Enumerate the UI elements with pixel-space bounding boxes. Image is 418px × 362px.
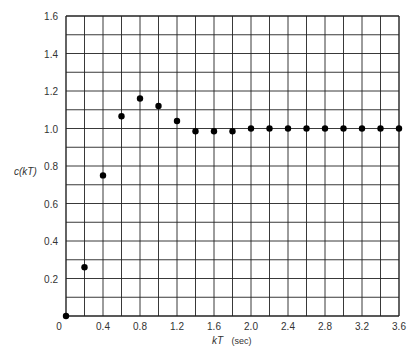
data-point [377, 125, 383, 131]
x-tick-label: 0 [56, 321, 62, 332]
x-tick-label: 3.6 [392, 321, 406, 332]
y-axis-label: c(kT) [14, 166, 37, 177]
x-tick-label: 3.2 [355, 321, 369, 332]
data-point [137, 95, 143, 101]
y-tick-label: 0.8 [44, 161, 58, 172]
data-point [81, 264, 87, 270]
grid [66, 16, 399, 316]
y-tick-label: 1.2 [44, 86, 58, 97]
x-axis-label-unit: (sec) [232, 336, 252, 346]
y-tick-label: 0.2 [44, 274, 58, 285]
data-point [303, 125, 309, 131]
data-point [322, 125, 328, 131]
data-point [266, 125, 272, 131]
data-point [229, 128, 235, 134]
data-point [174, 118, 180, 124]
data-point [285, 125, 291, 131]
y-axis-ticks: 0.20.40.60.81.01.21.41.6 [44, 11, 58, 285]
data-point [155, 103, 161, 109]
y-tick-label: 0.6 [44, 199, 58, 210]
y-tick-label: 0.4 [44, 236, 58, 247]
y-tick-label: 1.0 [44, 124, 58, 135]
x-tick-label: 2.8 [318, 321, 332, 332]
data-point [192, 128, 198, 134]
x-tick-label: 0.8 [133, 321, 147, 332]
x-axis-label-var: kT [212, 335, 224, 346]
data-point [248, 125, 254, 131]
x-tick-label: 1.2 [170, 321, 184, 332]
data-point [118, 113, 124, 119]
y-tick-label: 1.6 [44, 11, 58, 22]
data-point [63, 313, 69, 319]
x-tick-label: 2.0 [244, 321, 258, 332]
data-point [340, 125, 346, 131]
x-axis-label: kT (sec) [212, 330, 252, 347]
x-tick-label: 2.4 [281, 321, 295, 332]
data-point [100, 172, 106, 178]
x-tick-label: 0.4 [96, 321, 110, 332]
data-point [396, 125, 402, 131]
data-point [211, 128, 217, 134]
data-point [359, 125, 365, 131]
y-tick-label: 1.4 [44, 49, 58, 60]
x-tick-label: 1.6 [207, 321, 221, 332]
chart: 0.20.40.60.81.01.21.41.6 00.40.81.21.62.… [0, 0, 418, 362]
x-axis-ticks: 00.40.81.21.62.02.42.83.23.6 [56, 321, 406, 332]
